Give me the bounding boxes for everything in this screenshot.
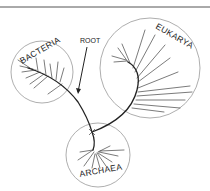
tree-of-life-diagram: ROOT BACTERIA EUKARYA ARCHAEA bbox=[0, 0, 210, 191]
root-arrow bbox=[78, 47, 87, 92]
root-arrowhead-icon bbox=[76, 88, 81, 94]
archaea-circle bbox=[66, 123, 130, 187]
eukarya-label: EUKARYA bbox=[154, 21, 195, 51]
eukarya-circle bbox=[100, 18, 200, 118]
root-label: ROOT bbox=[80, 37, 101, 44]
bacteria-label: BACTERIA bbox=[18, 35, 62, 66]
